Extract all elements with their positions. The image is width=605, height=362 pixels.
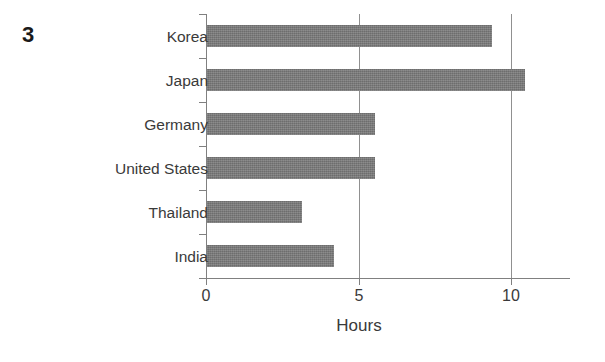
bar-korea [207,25,492,47]
value-tick-label-0: 0 [202,288,211,304]
category-tick-1 [199,58,206,59]
category-tick-6 [199,278,206,279]
x-axis-title: Hours [336,317,381,334]
value-tick-label-5: 5 [355,288,364,304]
value-tick-5 [359,278,360,285]
category-label-united-states: United States [115,161,208,177]
category-tick-3 [199,146,206,147]
category-axis-line [206,14,207,279]
bar-thailand [207,201,302,223]
category-label-thailand: Thailand [149,205,208,221]
value-tick-10 [511,278,512,285]
category-tick-0 [199,14,206,15]
category-tick-5 [199,234,206,235]
gridline-5 [359,14,360,278]
value-tick-label-10: 10 [502,288,520,304]
value-axis-line [206,278,570,279]
category-label-germany: Germany [144,117,208,133]
category-tick-4 [199,190,206,191]
category-label-korea: Korea [167,29,208,45]
gridline-10 [511,14,512,278]
bar-chart-plot-area: Korea Japan Germany United States Thaila… [0,0,605,362]
category-label-japan: Japan [166,73,208,89]
category-label-india: India [174,249,208,265]
bar-germany [207,113,375,135]
bar-india [207,245,334,267]
bar-japan [207,69,525,91]
category-tick-2 [199,102,206,103]
chart-figure: 3 Korea Japan Germany United States Thai [0,0,605,362]
value-tick-0 [206,278,207,285]
bar-united-states [207,157,375,179]
